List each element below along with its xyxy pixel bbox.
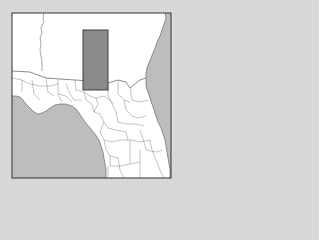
highlighted-region	[83, 30, 108, 90]
locator-map	[0, 0, 185, 192]
